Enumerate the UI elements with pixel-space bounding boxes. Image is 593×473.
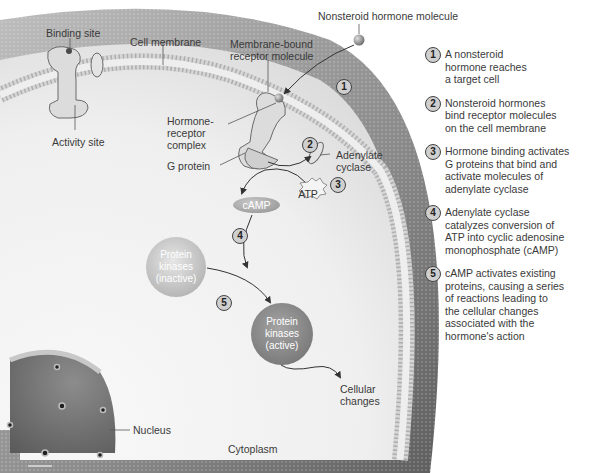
step-number-badge: 2 <box>425 96 441 112</box>
step-number-badge: 3 <box>425 144 441 160</box>
step-description: Adenylate cyclase catalyzes conversion o… <box>445 206 564 256</box>
hormone-signaling-diagram: Nonsteroid hormone molecule Binding site… <box>0 0 593 473</box>
legend-step-5: 5 cAMP activates existing proteins, caus… <box>425 267 593 342</box>
step-number-badge: 1 <box>425 47 441 63</box>
badge-step-3: 3 <box>330 177 346 193</box>
label-atp: ATP <box>293 185 323 203</box>
badge-step-1: 1 <box>336 79 352 95</box>
badge-step-4: 4 <box>232 228 248 244</box>
label-binding-site: Binding site <box>46 27 100 39</box>
label-adenylate-cyclase: Adenylate cyclase <box>336 149 383 173</box>
label-cytoplasm: Cytoplasm <box>228 443 278 455</box>
label-camp: cAMP <box>242 199 270 211</box>
step-description: Nonsteroid hormones bind receptor molecu… <box>445 97 556 135</box>
bound-hormone-molecule <box>275 94 284 103</box>
label-protein-kinases-inactive: Protein kinases (inactive) <box>156 249 197 285</box>
step-description: Hormone binding activates G proteins tha… <box>445 145 569 195</box>
protein-kinases-inactive: Protein kinases (inactive) <box>146 237 206 297</box>
camp-molecule: cAMP <box>233 197 280 213</box>
label-g-protein: G protein <box>167 160 210 172</box>
label-nucleus: Nucleus <box>133 424 171 436</box>
legend-step-3: 3 Hormone binding activates G proteins t… <box>425 145 593 195</box>
step-number-badge: 4 <box>425 205 441 221</box>
badge-step-5: 5 <box>216 295 232 311</box>
legend-step-1: 1 A nonsteroid hormone reaches a target … <box>425 48 593 86</box>
label-membrane-bound-receptor: Membrane-bound receptor molecule <box>230 38 313 62</box>
legend-step-4: 4 Adenylate cyclase catalyzes conversion… <box>425 206 593 256</box>
label-activity-site: Activity site <box>52 136 105 148</box>
badge-step-2: 2 <box>302 137 318 153</box>
protein-kinases-active: Protein kinases (active) <box>251 303 313 365</box>
label-nonsteroid-hormone: Nonsteroid hormone molecule <box>318 10 458 22</box>
label-hormone-receptor-complex: Hormone- receptor complex <box>167 115 214 151</box>
step-description: cAMP activates existing proteins, causin… <box>445 267 564 342</box>
label-protein-kinases-active: Protein kinases (active) <box>265 316 299 352</box>
step-number-badge: 5 <box>425 266 441 282</box>
free-hormone-molecule <box>354 35 365 46</box>
step-description: A nonsteroid hormone reaches a target ce… <box>445 48 527 86</box>
step-legend: 1 A nonsteroid hormone reaches a target … <box>425 48 593 353</box>
label-cellular-changes: Cellular changes <box>340 383 380 407</box>
footer-mark <box>28 465 52 467</box>
label-cell-membrane: Cell membrane <box>130 36 201 48</box>
legend-step-2: 2 Nonsteroid hormones bind receptor mole… <box>425 97 593 135</box>
